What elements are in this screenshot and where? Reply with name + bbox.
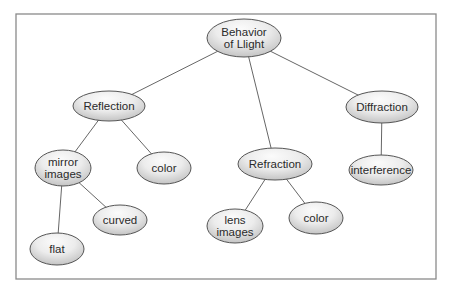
concept-map-diagram: Behaviorof LlightReflectionmirrorimagesc… <box>0 0 452 293</box>
node-refl-color: color <box>137 152 191 184</box>
node-root: Behaviorof Llight <box>207 19 281 57</box>
node-mirror: mirrorimages <box>35 150 91 186</box>
node-lens: lensimages <box>207 209 263 243</box>
node-label: flat <box>49 243 65 255</box>
node-label: lens <box>224 214 245 226</box>
node-label: mirror <box>48 156 78 168</box>
node-reflection: Reflection <box>73 91 145 121</box>
node-label: Diffraction <box>356 101 408 113</box>
node-label: images <box>216 226 253 238</box>
node-label: images <box>44 168 81 180</box>
node-interference: interference <box>349 155 413 185</box>
node-label: Reflection <box>83 100 134 112</box>
node-flat: flat <box>30 233 84 265</box>
node-label: of Llight <box>224 38 265 50</box>
node-label: interference <box>351 164 412 176</box>
node-label: Refraction <box>249 158 301 170</box>
node-label: color <box>152 162 177 174</box>
node-label: curved <box>103 214 138 226</box>
node-curved: curved <box>93 205 147 235</box>
node-label: color <box>304 212 329 224</box>
node-refr-color: color <box>289 202 343 234</box>
node-diffraction: Diffraction <box>346 91 418 123</box>
nodes-layer: Behaviorof LlightReflectionmirrorimagesc… <box>30 19 418 265</box>
node-label: Behavior <box>221 26 267 38</box>
node-refraction: Refraction <box>238 148 312 180</box>
